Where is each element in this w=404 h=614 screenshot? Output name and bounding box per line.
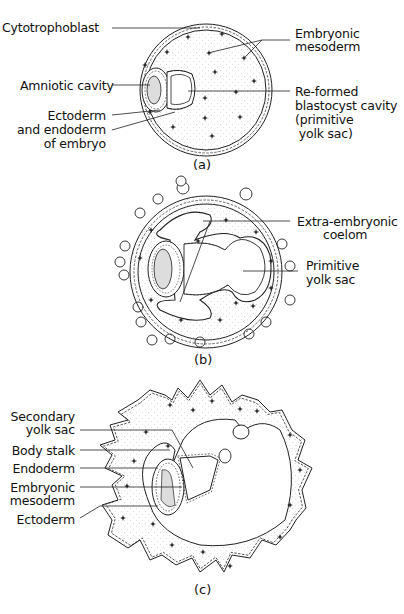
- panel-a: [112, 24, 290, 156]
- caption-b: (b): [194, 352, 212, 367]
- label-embryonic-mesoderm-c-2: mesoderm: [10, 494, 75, 507]
- label-body-stalk: Body stalk: [12, 444, 75, 457]
- label-reformed-4: yolk sac): [295, 127, 353, 140]
- label-primitive-yolk-sac-1: Primitive: [306, 259, 359, 272]
- label-ectoderm-endoderm-3: of embryo: [44, 137, 106, 150]
- panel-b: [115, 176, 298, 348]
- panel-c: [80, 380, 312, 572]
- label-primitive-yolk-sac-2: yolk sac: [306, 273, 355, 286]
- label-cytotrophoblast: Cytotrophoblast: [2, 21, 99, 34]
- label-embryonic-mesoderm-2: mesoderm: [295, 40, 360, 53]
- caption-a: (a): [193, 157, 211, 172]
- label-ectoderm: Ectoderm: [17, 513, 75, 526]
- label-ectoderm-endoderm-2: and endoderm: [17, 123, 106, 136]
- label-reformed-1: Re-formed: [295, 85, 358, 98]
- label-amniotic-cavity: Amniotic cavity: [20, 79, 114, 92]
- label-extra-embryonic-coelom-2: coelom: [323, 228, 367, 241]
- label-secondary-yolk-sac-2: yolk sac: [26, 423, 75, 436]
- label-ectoderm-endoderm-1: Ectoderm: [48, 109, 106, 122]
- caption-c: (c): [194, 582, 211, 597]
- label-reformed-2: blastocyst cavity: [295, 99, 397, 112]
- label-endoderm: Endoderm: [12, 462, 75, 475]
- label-reformed-3: (primitive: [295, 113, 354, 126]
